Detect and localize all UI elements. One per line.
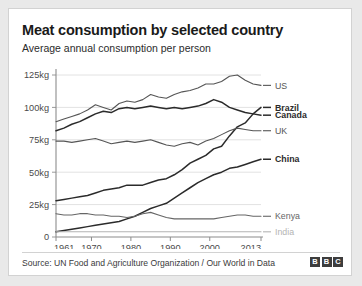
y-axis-label: 75kg [29,135,49,145]
x-axis-label: 1990 [160,243,180,249]
series-line-kenya [56,212,261,218]
x-axis-label: 2013 [241,243,261,249]
y-axis-label: 100kg [24,103,49,113]
series-line-canada [56,100,261,131]
series-label-canada: Canada [275,110,307,120]
series-label-india: India [275,227,294,237]
chart-subtitle: Average annual consumption per person [22,42,211,54]
x-axis-label: 1980 [121,243,141,249]
x-axis-label: 2000 [200,243,220,249]
y-axis-label: 125kg [24,70,49,80]
bbc-logo: B B C [310,257,343,267]
bbc-logo-letter: B [310,257,320,267]
source-note: Source: UN Food and Agriculture Organiza… [22,258,275,268]
series-line-uk [56,128,261,146]
y-axis-label: 0 [44,232,49,242]
x-axis-label: 1961 [54,243,74,249]
y-axis-label: 50kg [29,168,49,178]
series-line-us [56,75,261,122]
x-axis-label: 1970 [81,243,101,249]
series-line-brazil [56,107,261,200]
series-label-china: China [275,154,300,164]
chart-card: Meat consumption by selected country Ave… [8,8,352,276]
footer-divider [22,252,340,253]
series-label-uk: UK [275,126,287,136]
series-label-kenya: Kenya [275,211,300,221]
y-axis-label: 25kg [29,200,49,210]
line-chart: 025kg50kg75kg100kg125kg19611970198019902… [9,57,351,249]
bbc-logo-letter: B [322,257,332,267]
series-label-us: US [275,81,287,91]
bbc-logo-letter: C [333,257,343,267]
page-title: Meat consumption by selected country [22,22,283,38]
